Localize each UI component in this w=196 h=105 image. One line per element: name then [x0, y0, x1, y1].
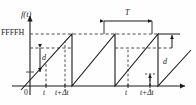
origin-label: 0 [24, 89, 28, 97]
period-label: T [125, 9, 129, 17]
x-tick-label-t1-dt: t+Δt [55, 89, 69, 97]
x-tick-label-t2: t [125, 89, 127, 97]
x-tick-label-t2-dt: t+Δt [140, 89, 154, 97]
waveform-figure: f(t) FFFFH T d d 0 t t+Δt t t+Δt [0, 0, 196, 105]
period-span-arrow [104, 21, 152, 34]
y-axis-label: f(t) [21, 10, 31, 19]
full-scale-level-label: FFFFH [1, 29, 24, 37]
x-tick-label-t1: t [43, 89, 45, 97]
increment-label-left: d [42, 54, 46, 62]
increment-label-right: d [163, 58, 167, 66]
